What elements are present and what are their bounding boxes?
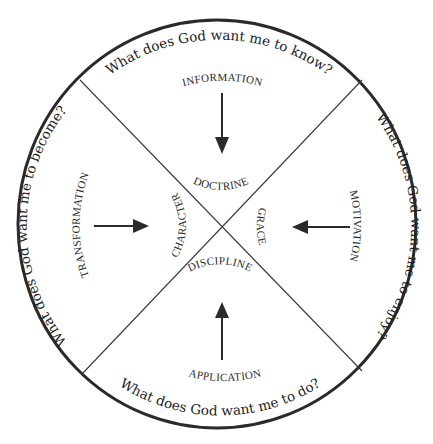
outer-label-top: INFORMATION	[181, 71, 264, 88]
quadrant-bottom: What does God want me to do? APPLICATION…	[117, 254, 322, 418]
arrow-up-icon	[215, 302, 229, 360]
inner-label-top: DOCTRINE	[192, 174, 250, 192]
question-right: What does God want me to enjoy?	[373, 109, 424, 342]
arrow-left-icon	[292, 220, 350, 234]
arrow-right-icon	[94, 219, 149, 233]
wheel-diagram: What does God want me to know? INFORMATI…	[0, 0, 433, 444]
outer-label-left: TRANSFORMATION	[70, 171, 91, 280]
arrow-down-icon	[215, 93, 229, 154]
quadrant-left: What does God want me to become? TRANSFO…	[14, 102, 188, 349]
inner-label-right: GRACE	[255, 207, 270, 246]
question-top: What does God want me to know?	[102, 27, 335, 78]
outer-label-bottom: APPLICATION	[188, 367, 262, 383]
inner-label-bottom: DISCIPLINE	[185, 254, 254, 273]
quadrant-top: What does God want me to know? INFORMATI…	[102, 27, 335, 192]
quadrant-right: What does God want me to enjoy? MOTIVATI…	[255, 109, 425, 342]
outer-label-right: MOTIVATION	[348, 189, 364, 263]
inner-label-left: CHARACTER	[168, 191, 188, 259]
question-left: What does God want me to become?	[14, 102, 70, 349]
